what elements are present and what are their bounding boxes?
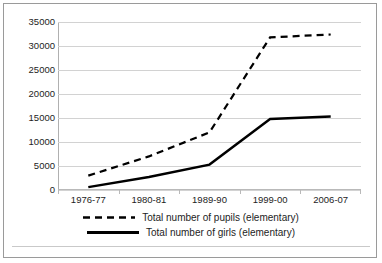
x-axis-tick-label: 1989-90 (192, 194, 227, 205)
plot-region: 05000100001500020000250003000035000 1976… (4, 4, 378, 204)
gridline (58, 190, 361, 191)
y-axis-tick-labels: 05000100001500020000250003000035000 (9, 4, 55, 204)
chart-legend: Total number of pupils (elementary) Tota… (4, 210, 378, 244)
x-axis-tick-labels: 1976-771980-811989-901999-002006-07 (58, 194, 361, 210)
legend-swatch-solid-line (87, 227, 139, 238)
x-axis-tick-label: 1999-00 (253, 194, 288, 205)
y-axis-tick-label: 0 (11, 185, 55, 195)
y-axis-tick-label: 30000 (11, 41, 55, 51)
x-axis-tick-label: 2006-07 (313, 194, 348, 205)
legend-label-girls: Total number of girls (elementary) (146, 227, 295, 238)
legend-item-girls[interactable]: Total number of girls (elementary) (4, 225, 378, 240)
legend-swatch-dashed-line (83, 212, 135, 223)
y-axis-tick-label: 35000 (11, 17, 55, 27)
plot-area (58, 22, 361, 190)
y-axis-tick-label: 20000 (11, 89, 55, 99)
series-line-pupils (88, 34, 330, 175)
series-lines (58, 22, 361, 190)
x-axis-tick-label: 1980-81 (131, 194, 166, 205)
y-axis-tick-label: 5000 (11, 161, 55, 171)
chart-container: 05000100001500020000250003000035000 1976… (3, 3, 377, 258)
x-axis-tick-label: 1976-77 (71, 194, 106, 205)
legend-label-pupils: Total number of pupils (elementary) (142, 212, 299, 223)
legend-item-pupils[interactable]: Total number of pupils (elementary) (4, 210, 378, 225)
y-axis-tick-label: 25000 (11, 65, 55, 75)
y-axis-tick-label: 15000 (11, 113, 55, 123)
series-line-girls (88, 117, 330, 188)
legend-divider (12, 246, 370, 247)
y-axis-tick-label: 10000 (11, 137, 55, 147)
